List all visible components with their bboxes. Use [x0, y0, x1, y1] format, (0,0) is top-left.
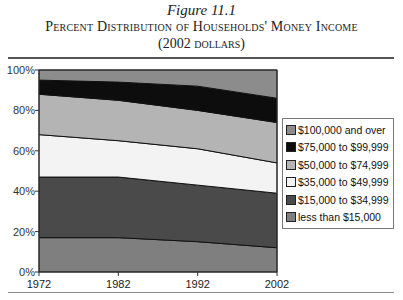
y-tick-label: 60% [13, 145, 35, 157]
y-tick-label: 100% [7, 64, 35, 76]
legend-swatch-icon [286, 177, 296, 187]
legend-item: less than $15,000 [286, 209, 393, 227]
y-tick-label: 80% [13, 104, 35, 116]
legend-item: $75,000 to $99,999 [286, 139, 393, 157]
legend-label: $50,000 to $74,999 [298, 159, 389, 171]
y-tick-label: 40% [13, 185, 35, 197]
legend-item: $15,000 to $34,999 [286, 191, 393, 209]
y-tick-label: 0% [19, 266, 35, 278]
legend-item: $100,000 and over [286, 121, 393, 139]
legend: $100,000 and over$75,000 to $99,999$50,0… [282, 118, 394, 229]
bottom-rule [8, 292, 394, 293]
legend-swatch-icon [286, 142, 296, 152]
x-tick-label: 1982 [106, 278, 130, 290]
legend-swatch-icon [286, 125, 296, 135]
legend-label: less than $15,000 [298, 211, 381, 223]
legend-swatch-icon [286, 160, 296, 170]
legend-label: $100,000 and over [298, 124, 386, 136]
x-tick-label: 2002 [265, 278, 289, 290]
x-tick-label: 1972 [27, 278, 51, 290]
y-tick-label: 20% [13, 226, 35, 238]
legend-label: $35,000 to $49,999 [298, 176, 389, 188]
legend-item: $35,000 to $49,999 [286, 174, 393, 192]
x-tick-label: 1992 [185, 278, 209, 290]
plot-areas [39, 70, 277, 272]
legend-item: $50,000 to $74,999 [286, 156, 393, 174]
legend-swatch-icon [286, 195, 296, 205]
legend-label: $15,000 to $34,999 [298, 194, 389, 206]
legend-label: $75,000 to $99,999 [298, 141, 389, 153]
legend-swatch-icon [286, 212, 296, 222]
